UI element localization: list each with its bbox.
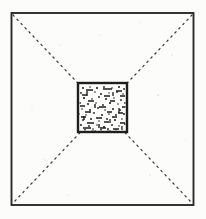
texture-dot — [114, 119, 116, 121]
texture-dot — [95, 102, 97, 104]
texture-dot — [117, 103, 119, 105]
texture-dot — [97, 107, 99, 109]
texture-dot — [122, 93, 124, 95]
texture-dot — [96, 87, 98, 89]
texture-dot — [90, 118, 92, 120]
texture-dot — [108, 113, 110, 115]
texture-dot — [112, 108, 114, 110]
texture-dot — [83, 97, 85, 99]
texture-dot — [107, 128, 109, 130]
texture-dot — [87, 103, 89, 105]
texture-dot — [113, 97, 115, 99]
texture-dot — [96, 124, 98, 126]
texture-dot — [100, 93, 102, 95]
texture-dot — [108, 92, 109, 93]
texture-dot — [80, 92, 82, 94]
texture-dot — [89, 86, 91, 88]
texture-dot — [123, 113, 125, 115]
figure-canvas — [0, 0, 206, 219]
texture-dot — [104, 109, 106, 111]
texture-dot — [88, 125, 90, 127]
texture-dot — [101, 114, 103, 116]
inner-chamber-group — [78, 83, 127, 132]
texture-dot — [118, 125, 120, 127]
texture-dot — [102, 104, 104, 106]
texture-dot — [80, 124, 82, 126]
texture-dot — [89, 109, 91, 111]
texture-dot — [85, 114, 87, 116]
texture-dot — [94, 91, 96, 93]
texture-dot — [121, 118, 123, 120]
texture-dot — [98, 96, 100, 98]
texture-dot — [92, 128, 94, 130]
texture-dot — [118, 86, 120, 88]
line-drawing-svg — [0, 0, 206, 219]
texture-dot — [82, 87, 84, 89]
texture-dot — [123, 88, 125, 90]
texture-dot — [103, 86, 105, 88]
texture-dot — [109, 102, 111, 104]
texture-dot — [120, 99, 122, 101]
texture-dot — [115, 114, 117, 116]
texture-dot — [105, 98, 107, 100]
texture-dot — [81, 108, 83, 110]
texture-dot — [93, 112, 95, 114]
texture-dot — [106, 118, 108, 120]
texture-dot — [98, 120, 100, 122]
texture-dot — [91, 98, 93, 100]
texture-dot — [111, 124, 113, 126]
